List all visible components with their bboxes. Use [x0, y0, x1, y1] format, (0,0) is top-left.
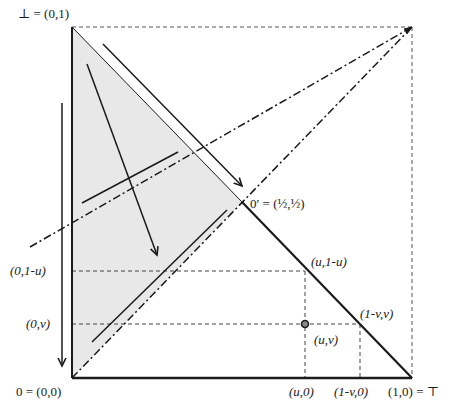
antidiagonal-lower [242, 202, 412, 378]
point-u-v [302, 321, 309, 328]
label-u-1mu: (u,1-u) [311, 254, 347, 269]
corner-arrow-icon [404, 27, 412, 34]
label-1mv-v: (1-v,v) [360, 306, 393, 321]
label-1mv-0: (1-v,0) [334, 384, 368, 399]
label-u-0: (u,0) [289, 384, 314, 399]
shaded-region [72, 27, 242, 378]
label-0-1mu: (0,1-u) [10, 263, 46, 278]
label-0-v: (0,v) [26, 316, 50, 331]
label-zero-prime: 0′ = (½,½) [250, 196, 305, 211]
lattice-diagram: ⊥ = (0,1) 0 = (0,0) (1,0) = ⊤ 0′ = (½,½)… [0, 0, 450, 410]
label-bottom-element: ⊥ = (0,1) [18, 6, 69, 21]
label-top-element: (1,0) = ⊤ [388, 384, 439, 399]
label-u-v: (u,v) [314, 332, 338, 347]
label-zero: 0 = (0,0) [16, 384, 61, 399]
